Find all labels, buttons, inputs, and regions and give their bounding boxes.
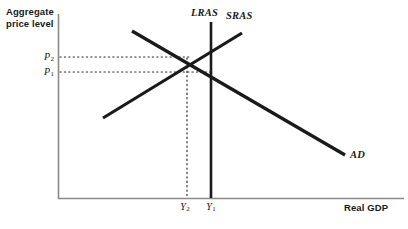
tick-p2-sub: 2: [50, 55, 54, 63]
tick-y1-sub: 1: [212, 205, 216, 213]
figure-canvas: Aggregate price level Real GDP LRAS SRAS…: [0, 0, 408, 229]
tick-y2-base: Y: [180, 201, 186, 212]
lras-curve-label: LRAS: [191, 7, 218, 18]
curves-group: [103, 22, 345, 198]
axes-group: [58, 14, 404, 199]
y-axis-title-line1: Aggregate: [6, 6, 54, 18]
guide-lines-group: [60, 57, 214, 197]
ad-as-diagram: [0, 0, 408, 229]
tick-y2-sub: 2: [186, 205, 190, 213]
sras-curve: [103, 33, 242, 118]
tick-label-p1: P1: [38, 66, 54, 78]
tick-y1-base: Y: [206, 201, 212, 212]
tick-label-p2: P2: [38, 51, 54, 63]
ad-curve-label: AD: [350, 149, 365, 160]
y-axis-title-line2: price level: [6, 18, 54, 30]
tick-p1-sub: 1: [50, 70, 54, 78]
tick-label-y1: Y1: [204, 201, 218, 213]
ad-curve: [132, 31, 345, 155]
x-axis-title: Real GDP: [344, 202, 388, 214]
tick-label-y2: Y2: [178, 201, 192, 213]
y-axis-title: Aggregate price level: [6, 6, 54, 29]
sras-curve-label: SRAS: [226, 10, 253, 21]
